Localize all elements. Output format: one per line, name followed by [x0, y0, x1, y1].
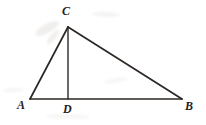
vertex-label-b: B: [185, 100, 193, 112]
triangle-diagram-canvas: [0, 0, 206, 125]
segment-cb: [68, 27, 182, 99]
vertex-label-c: C: [62, 5, 70, 17]
vertex-label-a: A: [17, 99, 25, 111]
triangle-strokes: [30, 27, 182, 99]
geometry-figure: A B C D: [0, 0, 206, 125]
vertex-label-d: D: [63, 103, 72, 115]
segment-ac: [30, 27, 68, 99]
